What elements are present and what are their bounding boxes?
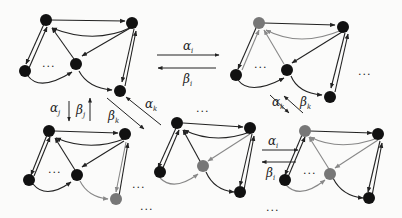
graph-g5: ...: [279, 125, 384, 204]
node: [324, 91, 336, 103]
node-gray: [197, 160, 209, 172]
ellipsis: ...: [140, 200, 154, 213]
label-alpha: αi: [268, 134, 278, 150]
label-alpha: αj: [50, 101, 61, 117]
node: [71, 169, 83, 181]
label-beta: βi: [265, 166, 275, 182]
node-gray: [299, 125, 311, 137]
node-gray: [324, 168, 336, 180]
node: [363, 192, 375, 204]
node-gray: [110, 193, 122, 205]
ellipsis: ...: [132, 178, 146, 191]
ellipsis: ...: [358, 65, 372, 78]
label-beta: βj: [75, 103, 86, 119]
node: [126, 17, 138, 29]
node: [23, 174, 35, 186]
graph-g4: ... ...: [154, 102, 280, 214]
label-alpha: αk: [145, 97, 157, 113]
ellipsis: ...: [303, 164, 317, 177]
node: [154, 166, 166, 178]
node: [43, 125, 55, 137]
transition-g1-g2: [157, 55, 219, 68]
label-alpha: αi: [183, 39, 193, 55]
node: [19, 65, 31, 77]
node: [337, 21, 349, 33]
ellipsis: ...: [42, 57, 56, 70]
node: [119, 128, 131, 140]
label-beta: βi: [182, 72, 192, 88]
graph-g2: ... ...: [230, 17, 372, 103]
graph-g1: ...: [19, 14, 138, 97]
node-gray: [253, 17, 265, 29]
node: [279, 174, 291, 186]
label-beta: βk: [107, 109, 119, 125]
diagram-canvas: ... ... ...: [0, 0, 402, 218]
ellipsis: ...: [48, 163, 62, 176]
label-beta: βk: [299, 95, 311, 111]
graph-g3: ... ... ...: [23, 125, 154, 213]
node: [171, 117, 183, 129]
node: [234, 186, 246, 198]
node: [372, 128, 384, 140]
node: [281, 64, 293, 76]
node: [114, 85, 126, 97]
ellipsis: ...: [266, 201, 280, 214]
label-alpha: αk: [272, 95, 284, 111]
ellipsis: ...: [254, 58, 268, 71]
node: [230, 69, 242, 81]
ellipsis: ...: [196, 102, 210, 115]
node: [244, 122, 256, 134]
node: [40, 14, 52, 26]
node: [70, 58, 82, 70]
